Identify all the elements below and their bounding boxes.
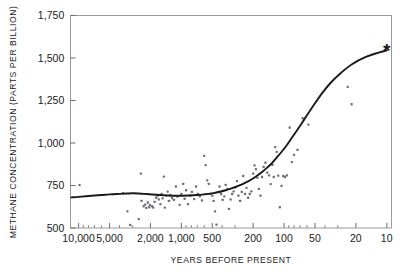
chart-canvas: 1,7501,5001,2501,000750500 10,0005,0002,… — [0, 0, 413, 277]
data-point — [129, 224, 131, 226]
data-point — [191, 191, 193, 193]
data-point — [266, 171, 268, 173]
data-point — [147, 201, 149, 203]
data-point — [214, 210, 216, 212]
data-point — [178, 204, 180, 206]
data-point — [78, 184, 80, 186]
data-point — [211, 195, 213, 197]
data-point — [264, 162, 266, 164]
data-point — [212, 200, 214, 202]
data-point — [286, 174, 288, 176]
data-point — [289, 127, 291, 129]
data-point — [153, 201, 155, 203]
annotations-group: * — [383, 40, 391, 61]
data-point — [215, 223, 217, 225]
data-point — [229, 198, 231, 200]
data-point — [274, 146, 276, 148]
data-point — [175, 185, 177, 187]
data-point — [239, 200, 241, 202]
data-point — [218, 185, 220, 187]
data-point — [140, 172, 142, 174]
data-point — [347, 86, 349, 88]
data-point — [291, 161, 293, 163]
x-tick-label-50: 50 — [309, 232, 321, 244]
data-point — [195, 185, 197, 187]
methane-concentration-figure: 1,7501,5001,2501,000750500 10,0005,0002,… — [0, 0, 413, 277]
data-point — [182, 183, 184, 185]
data-point — [203, 155, 205, 157]
y-tick-label-1250: 1,250 — [38, 94, 65, 106]
data-point — [244, 193, 246, 195]
data-point — [277, 174, 279, 176]
data-point — [185, 189, 187, 191]
data-point — [293, 154, 295, 156]
data-point — [249, 193, 251, 195]
data-point — [168, 200, 170, 202]
data-point — [236, 180, 238, 182]
data-point — [225, 184, 227, 186]
data-point — [350, 103, 352, 105]
data-point — [237, 195, 239, 197]
data-point — [261, 176, 263, 178]
data-point — [208, 183, 210, 185]
x-tick-label-2000: 2,000 — [137, 232, 164, 244]
data-point — [140, 200, 142, 202]
data-point — [241, 191, 243, 193]
data-point — [280, 185, 282, 187]
data-point — [270, 183, 272, 185]
data-point — [126, 210, 128, 212]
data-point — [273, 176, 275, 178]
data-point — [205, 164, 207, 166]
data-point — [242, 175, 244, 177]
data-point — [296, 149, 298, 151]
data-point — [247, 197, 249, 199]
data-point — [159, 203, 161, 205]
data-point — [206, 179, 208, 181]
data-point — [173, 199, 175, 201]
data-point — [284, 176, 286, 178]
data-point — [268, 174, 270, 176]
data-point — [222, 199, 224, 201]
data-point — [138, 218, 140, 220]
data-point — [228, 208, 230, 210]
y-tick-label-1000: 1,000 — [38, 137, 65, 149]
data-point — [164, 206, 166, 208]
x-tick-label-10: 10 — [381, 232, 393, 244]
data-point — [255, 168, 257, 170]
data-point — [258, 188, 260, 190]
data-point — [148, 206, 150, 208]
y-axis-title: METHANE CONCENTRATION (PARTS PER BILLION… — [8, 6, 18, 239]
x-tick-label-500: 500 — [203, 232, 221, 244]
x-tick-label-10000: 10,000 — [62, 232, 95, 244]
x-tick-label-1000: 1,000 — [168, 232, 195, 244]
present-day-marker: * — [383, 40, 391, 61]
data-point — [201, 199, 203, 201]
data-point — [193, 198, 195, 200]
data-point — [144, 203, 146, 205]
data-point — [220, 193, 222, 195]
data-point — [145, 207, 147, 209]
y-tick-label-1750: 1,750 — [38, 9, 65, 21]
x-tick-label-5000: 5,000 — [96, 232, 123, 244]
data-point — [263, 166, 265, 168]
data-point — [152, 206, 154, 208]
data-point — [183, 198, 185, 200]
data-point — [171, 197, 173, 199]
data-point — [276, 151, 278, 153]
data-point — [232, 190, 234, 192]
x-tick-label-200: 200 — [244, 232, 262, 244]
data-point — [163, 176, 165, 178]
x-tick-label-20: 20 — [350, 232, 362, 244]
data-point — [162, 197, 164, 199]
data-point — [259, 195, 261, 197]
data-point — [252, 172, 254, 174]
x-axis-title: YEARS BEFORE PRESENT — [171, 255, 292, 265]
y-tick-label-750: 750 — [47, 179, 65, 191]
data-point — [187, 203, 189, 205]
data-point — [231, 193, 233, 195]
data-point — [158, 198, 160, 200]
data-point — [250, 190, 252, 192]
x-tick-label-100: 100 — [275, 232, 293, 244]
data-point — [279, 206, 281, 208]
data-point — [149, 204, 151, 206]
